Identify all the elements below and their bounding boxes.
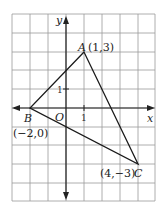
- origin-label: O: [55, 111, 64, 124]
- x-axis-left-arrow-icon: [12, 105, 20, 111]
- point-c-name: C: [134, 167, 143, 180]
- y-axis-down-arrow-icon: [63, 192, 69, 200]
- point-a-coords: (1,3): [88, 41, 114, 54]
- x-axis-label: x: [147, 112, 154, 125]
- x-unit-label: 1: [81, 113, 87, 123]
- y-axis-label: y: [55, 14, 63, 27]
- coordinate-plane: y x O 1 1 A (1,3) B (−2,0) (4,−3) C: [0, 0, 167, 205]
- x-axis-right-arrow-icon: [147, 105, 155, 111]
- y-axis-up-arrow-icon: [63, 16, 69, 24]
- y-unit-label: 1: [57, 85, 63, 95]
- point-b-name: B: [23, 112, 32, 125]
- point-a-name: A: [77, 41, 86, 54]
- point-c-coords: (4,−3): [100, 167, 135, 180]
- point-b-coords: (−2,0): [13, 127, 48, 140]
